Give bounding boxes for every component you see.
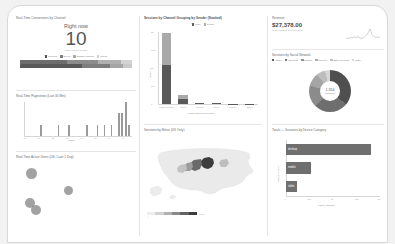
- legend-item-direct: Direct: [60, 55, 70, 58]
- bubble-marker[interactable]: [64, 186, 73, 195]
- realtime-stacked-bar-bottom: [20, 64, 132, 67]
- legend-swatch-organic-search: [73, 55, 75, 57]
- channel-stacked-bar: [212, 103, 221, 104]
- sessions-by-channel-plot: 05001K1.5K2K Organic SearchDirectReferra…: [158, 32, 258, 108]
- map-scale-max-label: 1,330: [199, 213, 204, 215]
- pageviews-x-tick: -10: [94, 137, 97, 139]
- legend-item-organic-search: Organic Search: [73, 55, 94, 58]
- channel-y-axis-label: Sessions: [149, 69, 151, 78]
- device-bar-label: desktop: [288, 148, 297, 151]
- legend-label-direct: Direct: [64, 55, 71, 58]
- panel-revenue[interactable]: Revenue $27,378.00 vs previous 28 days (…: [272, 16, 384, 48]
- divider-horizontal-1: [16, 90, 136, 91]
- legend-item-other: Other: [352, 59, 361, 61]
- map-color-scale: [147, 212, 197, 215]
- realtime-legend: Referral Direct Organic Search Social: [16, 55, 136, 58]
- device-bar-tablet: tablet: [286, 181, 297, 193]
- panel-sessions-by-device[interactable]: Totals — Sessions by Device Category des…: [272, 128, 384, 228]
- divider-horizontal-5: [272, 124, 384, 125]
- pageviews-bar: [58, 125, 60, 136]
- channel-y-tick: 500: [151, 85, 155, 87]
- divider-vertical-1: [139, 16, 140, 236]
- panel-sessions-by-social[interactable]: Sessions by Social Network Twitter Faceb…: [272, 53, 384, 121]
- device-x-axis-label: Pages / Session: [318, 204, 335, 206]
- sparkline-path: [346, 29, 380, 39]
- pageviews-x-tick: -6: [108, 137, 110, 139]
- legend-label-other: Other: [355, 59, 361, 61]
- panel-realtime-conversions[interactable]: Real-Time Conversions by Channel Right n…: [16, 16, 136, 88]
- pageviews-x-tick: -2: [122, 137, 124, 139]
- panel-title-sessions-by-channel: Sessions by Channel Grouping by Gender (…: [144, 16, 262, 20]
- channel-x-tick: Display: [225, 106, 242, 108]
- legend-label-organic-search: Organic Search: [77, 55, 94, 58]
- legend-swatch-referral: [45, 55, 47, 57]
- panel-title-realtime-conversions: Real-Time Conversions by Channel: [16, 16, 136, 20]
- device-bar-label: tablet: [288, 185, 294, 188]
- channel-bar-segment-male: [212, 103, 221, 104]
- us-map-svg: [146, 138, 260, 206]
- pageviews-bar: [104, 125, 106, 136]
- channel-bar-segment-male: [162, 65, 171, 104]
- channel-x-tick: Direct: [175, 106, 192, 108]
- legend-label-linkedin: LinkedIn: [319, 59, 328, 61]
- bubble-marker[interactable]: [26, 168, 37, 179]
- divider-horizontal-3: [144, 124, 262, 125]
- channel-bar-segment-female: [162, 33, 171, 65]
- scale-step-5: [180, 212, 188, 215]
- legend-swatch-social: [97, 55, 99, 57]
- panel-sessions-by-channel[interactable]: Sessions by Channel Grouping by Gender (…: [144, 16, 262, 122]
- divider-vertical-2: [267, 16, 268, 236]
- channel-y-tick: 1.5K: [151, 49, 156, 51]
- channel-y-tick: 1K: [151, 67, 154, 69]
- device-category-plot: desktopmobiletablet 05001K1.5K2K Device …: [286, 140, 380, 202]
- channel-x-tick: Referral: [191, 106, 208, 108]
- device-x-tick: 0: [284, 198, 285, 200]
- bar-segment-organic-search: [98, 60, 120, 64]
- pageviews-x-tick: -22: [51, 137, 54, 139]
- device-bar-mobile: mobile: [286, 162, 311, 174]
- panel-realtime-active-users[interactable]: Real-Time Active Users (US / Last 1 Day): [16, 155, 136, 231]
- legend-label-blogger: Blogger: [304, 59, 312, 61]
- legend-label-referral: Referral: [48, 55, 57, 58]
- bubble-marker[interactable]: [31, 205, 41, 215]
- channel-y-tick: 2K: [151, 31, 154, 33]
- panel-title-realtime-active-users: Real-Time Active Users (US / Last 1 Day): [16, 155, 136, 159]
- us-choropleth-map[interactable]: [146, 138, 260, 206]
- divider-horizontal-4: [272, 49, 384, 50]
- legend-item-male: male: [192, 23, 201, 26]
- device-x-tick: 2K: [378, 198, 381, 200]
- scale-step-2: [155, 212, 163, 215]
- scale-step-3: [164, 212, 172, 215]
- pageviews-x-tick: -30: [23, 137, 26, 139]
- channel-stacked-bar: [162, 33, 171, 104]
- panel-realtime-pageviews[interactable]: Real-Time Pageviews (Last 30 Min) Minute…: [16, 94, 136, 148]
- scale-step-1: [147, 212, 155, 215]
- pageviews-x-axis-label: Minute: [68, 139, 75, 141]
- channel-stacked-bar: [178, 95, 187, 104]
- pageviews-x-tick: -26: [37, 137, 40, 139]
- legend-label-female: female: [207, 23, 214, 26]
- hawaii-shape: [170, 195, 176, 199]
- legend-swatch-facebook: [285, 59, 287, 61]
- panel-sessions-by-metro[interactable]: Sessions by Metro (US Only): [144, 128, 262, 232]
- channel-y-tick: 0: [151, 103, 152, 105]
- us-mainland-shape: [158, 149, 253, 195]
- revenue-sparkline: [346, 28, 380, 40]
- panel-title-sessions-by-metro: Sessions by Metro (US Only): [144, 128, 262, 132]
- bar-segment-referral: [20, 60, 67, 64]
- legend-swatch-stack-overflow: [330, 59, 332, 61]
- channel-bars: [158, 32, 258, 104]
- pageviews-x-tick: -14: [80, 137, 83, 139]
- channel-x-axis-label: Default Channel Grouping: [188, 112, 215, 114]
- panel-title-sessions-by-device: Totals — Sessions by Device Category: [272, 128, 384, 132]
- legend-swatch-male: [192, 23, 194, 25]
- scale-step-6: [189, 212, 197, 215]
- screenshot-canvas: Real-Time Conversions by Channel Right n…: [0, 0, 395, 244]
- map-scale-min-label: 0: [147, 216, 148, 218]
- pageviews-x-tick: -18: [65, 137, 68, 139]
- legend-swatch-female: [204, 23, 206, 25]
- legend-label-twitter: Twitter: [275, 59, 282, 61]
- legend-item-social: Social: [97, 55, 107, 58]
- realtime-subtitle: active users on site: [16, 49, 136, 52]
- panel-title-realtime-pageviews: Real-Time Pageviews (Last 30 Min): [16, 94, 136, 98]
